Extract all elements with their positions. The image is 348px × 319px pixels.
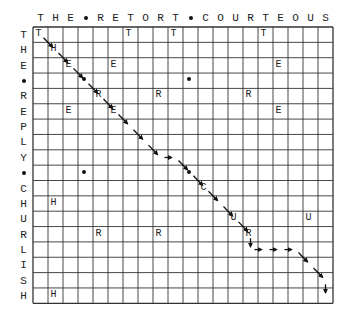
path-arrow [149, 145, 158, 154]
path-arrow [44, 38, 53, 47]
alignment-path [0, 0, 348, 319]
path-arrow [89, 84, 98, 93]
path-arrow [299, 253, 308, 262]
path-arrow [224, 207, 233, 216]
path-arrow [314, 268, 323, 277]
path-arrow [134, 130, 143, 139]
path-arrow [239, 222, 248, 231]
path-arrow [179, 160, 188, 169]
alignment-diagram: THERETORTCOURTEOUS THEREPLYCHURLISH TTTT… [0, 0, 348, 319]
path-arrow [104, 99, 113, 108]
path-arrow [209, 191, 218, 200]
path-arrow [119, 114, 128, 123]
path-arrow [194, 176, 203, 185]
path-arrow [74, 68, 83, 77]
path-arrow [59, 53, 68, 62]
